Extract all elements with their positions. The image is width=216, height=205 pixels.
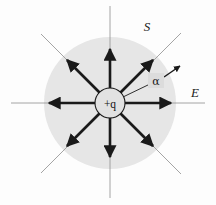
angle-label: α (152, 75, 160, 88)
surface-label: S (144, 19, 151, 34)
charge-label: +q (104, 98, 116, 111)
field-label: E (190, 85, 199, 100)
figure-canvas: +q S E α (0, 0, 216, 205)
electric-field-figure: +q S E α (0, 0, 216, 205)
